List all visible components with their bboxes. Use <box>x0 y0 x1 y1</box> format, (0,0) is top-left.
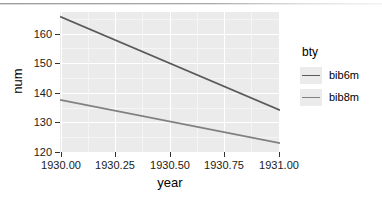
legend-item-label: bib6m <box>329 69 359 81</box>
series-line-bib6m <box>60 16 280 110</box>
legend-key-icon <box>300 89 322 106</box>
x-tick-mark <box>115 152 116 157</box>
x-tick-label: 1930.00 <box>31 159 91 171</box>
legend: bty bib6m bib8m <box>300 46 380 110</box>
ggplot-chart: 160 150 140 130 120 num 1930.00 1930.25 … <box>0 0 382 200</box>
scanline-artifact-secondary <box>0 4 382 5</box>
y-tick-mark <box>55 122 60 123</box>
y-tick-mark <box>55 63 60 64</box>
x-tick-mark <box>279 152 280 157</box>
x-tick-label: 1931.00 <box>249 159 309 171</box>
series-line-bib8m <box>60 100 280 143</box>
legend-item-bib8m[interactable]: bib8m <box>300 88 380 106</box>
x-tick-label: 1930.50 <box>140 159 200 171</box>
legend-key-icon <box>300 67 322 84</box>
legend-title: bty <box>302 46 380 59</box>
y-tick-label: 120 <box>12 147 52 158</box>
y-tick-mark <box>55 34 60 35</box>
x-tick-label: 1930.25 <box>85 159 145 171</box>
x-tick-mark <box>61 152 62 157</box>
x-tick-label: 1930.75 <box>194 159 254 171</box>
y-tick-mark <box>55 152 60 153</box>
legend-item-bib6m[interactable]: bib6m <box>300 66 380 84</box>
y-tick-label: 160 <box>12 29 52 40</box>
y-axis-title: num <box>11 51 25 111</box>
y-tick-mark <box>55 93 60 94</box>
series-layer <box>60 12 280 152</box>
legend-item-label: bib8m <box>329 91 359 103</box>
plot-panel <box>60 12 280 152</box>
x-axis-title: year <box>60 176 280 190</box>
x-tick-mark <box>170 152 171 157</box>
y-tick-label: 130 <box>12 117 52 128</box>
x-tick-mark <box>224 152 225 157</box>
